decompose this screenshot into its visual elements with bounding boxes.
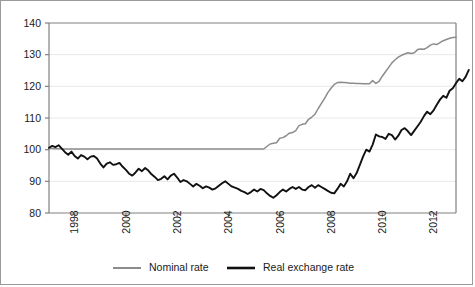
series-line-nominal-rate [49, 37, 456, 149]
y-tick-label: 120 [23, 80, 41, 92]
legend-label-nominal-rate: Nominal rate [149, 261, 209, 273]
x-tick-label: 2010 [376, 210, 388, 234]
x-tick-label: 2002 [171, 210, 183, 234]
x-tick-label: 2004 [222, 210, 234, 234]
x-tick-label: 2000 [120, 210, 132, 234]
y-tick-label: 90 [29, 175, 41, 187]
y-tick-label: 130 [23, 48, 41, 60]
y-tick-label: 140 [23, 17, 41, 29]
y-tick-label: 80 [29, 207, 41, 219]
chart-legend: Nominal rateReal exchange rate [113, 261, 354, 273]
y-tick-label: 100 [23, 143, 41, 155]
chart-frame: 8090100110120130140 19982000200220042006… [0, 0, 473, 285]
grid-lines [49, 23, 456, 213]
y-tick-label: 110 [24, 112, 41, 124]
x-tick-label: 2012 [427, 210, 439, 234]
x-tick-label: 2008 [325, 210, 337, 234]
exchange-rate-line-chart: 8090100110120130140 19982000200220042006… [1, 1, 474, 286]
x-axis: 19982000200220042006200820102012 [49, 210, 456, 234]
x-tick-label: 1998 [68, 210, 80, 234]
x-tick-label: 2006 [274, 210, 286, 234]
legend-label-real-exchange-rate: Real exchange rate [263, 261, 354, 273]
series-line-real-exchange-rate [49, 70, 469, 198]
y-axis: 8090100110120130140 [23, 17, 49, 219]
